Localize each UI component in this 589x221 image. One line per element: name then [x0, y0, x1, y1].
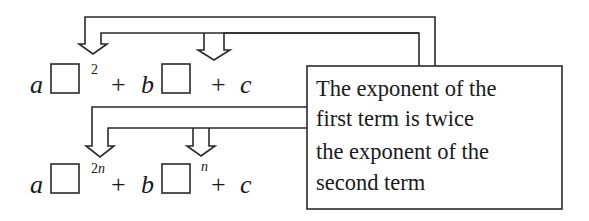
top-expression: a 2 + b + c	[30, 62, 252, 99]
bottom-plus-1: +	[111, 170, 126, 199]
bottom-outer-connector-arrow	[86, 107, 307, 157]
bottom-expression: a 2n + b n + c	[30, 159, 252, 199]
bottom-plus-2: +	[211, 170, 226, 199]
top-middle-arrow	[198, 33, 419, 60]
trinomial-form-diagram: a 2 + b + c a 2n + b n + c The exponent …	[0, 0, 589, 221]
top-coef-b: b	[141, 70, 154, 99]
explanation-line-2: first term is twice	[316, 106, 474, 131]
top-plus-1: +	[111, 70, 126, 99]
top-placeholder-square-2	[162, 64, 190, 93]
top-placeholder-square-1	[51, 64, 79, 93]
bottom-placeholder-square-1	[51, 164, 79, 193]
top-outer-connector-arrow	[79, 17, 435, 66]
bottom-const-c: c	[240, 170, 252, 199]
bottom-middle-arrow	[187, 128, 215, 156]
bottom-exponent-2: n	[201, 159, 208, 174]
bottom-coef-a: a	[30, 170, 43, 199]
bottom-exponent-1: 2n	[91, 161, 105, 176]
top-const-c: c	[240, 70, 252, 99]
top-exponent-1: 2	[91, 62, 98, 77]
explanation-line-4: second term	[316, 170, 426, 195]
bottom-placeholder-square-2	[162, 164, 190, 193]
explanation-line-3: the exponent of the	[316, 139, 489, 164]
top-plus-2: +	[211, 70, 226, 99]
bottom-coef-b: b	[141, 170, 154, 199]
top-coef-a: a	[30, 70, 43, 99]
explanation-line-1: The exponent of the	[316, 76, 497, 101]
explanation-text: The exponent of the first term is twice …	[316, 76, 497, 195]
